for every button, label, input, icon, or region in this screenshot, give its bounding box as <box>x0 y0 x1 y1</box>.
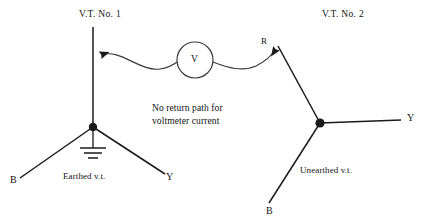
vt2-r-phase-line <box>278 46 320 123</box>
vt2-b-terminal-label: B <box>266 205 273 217</box>
figure-canvas: V.T. No. 1 V.T. No. 2 V R No return path… <box>0 0 432 220</box>
voltmeter-symbol: V <box>191 54 198 66</box>
vt2-star-point <box>315 118 324 127</box>
caption-line-1: No return path for <box>152 103 223 115</box>
voltmeter-lead-left <box>101 54 177 70</box>
vt1-title: V.T. No. 1 <box>79 9 121 21</box>
vt2-winding <box>269 46 401 203</box>
voltmeter-connection <box>101 42 276 78</box>
earthed-vt-caption: Earthed v.t. <box>63 171 105 182</box>
vt2-title: V.T. No. 2 <box>322 9 364 21</box>
vt2-y-phase-line <box>320 120 401 123</box>
ground-symbol <box>80 148 106 158</box>
voltmeter-lead-right <box>213 49 276 69</box>
vt2-y-terminal-label: Y <box>407 112 414 124</box>
unearthed-vt-caption: Unearthed v.t. <box>300 165 352 176</box>
caption-line-2: voltmeter current <box>152 116 219 128</box>
vt1-y-terminal-label: Y <box>166 171 173 183</box>
vt1-winding <box>20 27 165 178</box>
vt1-y-phase-line <box>93 127 165 174</box>
vt1-b-terminal-label: B <box>10 174 17 186</box>
vt2-r-terminal-label: R <box>261 36 267 47</box>
vt2-b-phase-line <box>269 123 320 203</box>
